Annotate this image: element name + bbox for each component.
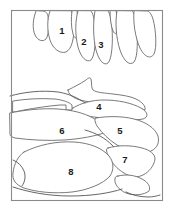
region-label-5: 5 — [117, 125, 123, 136]
line-drawing-diagram: 1 2 3 4 5 6 7 8 — [0, 0, 174, 215]
region-label-6: 6 — [59, 125, 64, 136]
lower-region-group — [13, 142, 160, 197]
region-label-2: 2 — [81, 36, 86, 47]
region-label-1: 1 — [59, 25, 65, 36]
region-label-3: 3 — [98, 39, 103, 50]
region-label-7: 7 — [122, 154, 127, 165]
region-label-8: 8 — [68, 166, 73, 177]
upper-lobe-leftmost — [33, 11, 48, 41]
region-label-4: 4 — [96, 101, 102, 112]
figure-container: 1 2 3 4 5 6 7 8 — [0, 0, 174, 215]
